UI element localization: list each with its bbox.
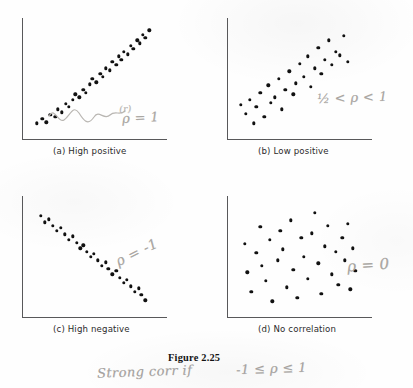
data-point <box>59 226 62 229</box>
data-point <box>278 229 281 232</box>
data-point <box>147 29 150 32</box>
data-point <box>319 72 322 75</box>
data-point <box>71 98 74 101</box>
data-point <box>334 50 337 53</box>
data-point <box>281 248 284 251</box>
data-point <box>351 247 354 250</box>
data-point <box>114 269 117 272</box>
data-point <box>306 277 309 280</box>
data-point <box>337 283 340 286</box>
data-point <box>110 60 113 63</box>
data-point <box>39 214 42 217</box>
data-point <box>313 66 316 69</box>
data-point <box>323 244 326 247</box>
data-point <box>255 251 258 254</box>
data-point <box>67 105 70 108</box>
panel-high-positive: (r) ρ = 1 (a) High positive <box>22 18 197 158</box>
data-point <box>44 120 47 123</box>
panel-low-positive: ½ < ρ < 1 (b) Low positive <box>227 18 402 158</box>
data-point <box>342 34 345 37</box>
data-point <box>101 75 104 78</box>
data-point <box>300 236 303 239</box>
data-point <box>73 92 76 95</box>
data-point <box>334 250 337 253</box>
data-point <box>100 264 103 267</box>
data-point <box>88 83 91 86</box>
data-point <box>55 229 58 232</box>
handwriting-note-bottom: Strong corr if <box>97 362 193 380</box>
figure-caption: Figure 2.25 <box>168 352 220 363</box>
scatter-plot-c <box>22 196 167 318</box>
data-point <box>143 298 146 301</box>
data-point <box>248 98 251 101</box>
data-points-c <box>22 196 167 318</box>
data-point <box>285 286 288 289</box>
data-point <box>346 222 349 225</box>
data-point <box>85 250 88 253</box>
data-point <box>81 243 84 246</box>
data-point <box>288 70 291 73</box>
data-point <box>284 88 287 91</box>
data-point <box>95 81 98 84</box>
data-point <box>60 111 63 114</box>
data-point <box>319 292 322 295</box>
data-point <box>309 85 312 88</box>
data-point <box>110 273 113 276</box>
data-point <box>75 241 78 244</box>
caption-panel-c: (c) High negative <box>53 324 130 334</box>
data-point <box>54 115 57 118</box>
data-point <box>276 259 279 262</box>
data-point <box>330 63 333 66</box>
data-point <box>264 279 267 282</box>
data-point <box>137 287 140 290</box>
data-point <box>118 276 121 279</box>
data-point <box>348 288 351 291</box>
data-point <box>89 255 92 258</box>
data-point <box>132 47 135 50</box>
data-point <box>338 54 341 57</box>
data-point <box>122 281 125 284</box>
data-point <box>79 247 82 250</box>
data-point <box>48 113 51 116</box>
data-point <box>255 105 258 108</box>
data-point <box>114 63 117 66</box>
data-point <box>271 300 274 303</box>
data-point <box>71 235 74 238</box>
data-point <box>292 92 295 95</box>
data-point <box>51 224 54 227</box>
data-point <box>120 58 123 61</box>
panel-high-negative: ρ = -1 (c) High negative <box>22 196 197 336</box>
data-point <box>249 290 252 293</box>
data-point <box>126 52 129 55</box>
data-point <box>40 117 43 120</box>
data-point <box>280 108 283 111</box>
data-point <box>104 261 107 264</box>
handwriting-rho-equals-a: ρ = 1 <box>122 109 160 126</box>
data-point <box>302 75 305 78</box>
data-points-b <box>227 18 372 140</box>
data-point <box>298 62 301 65</box>
data-point <box>129 284 132 287</box>
data-point <box>96 259 99 262</box>
data-point <box>35 122 38 125</box>
data-point <box>104 66 107 69</box>
data-point <box>346 60 349 63</box>
data-point <box>292 268 295 271</box>
data-point <box>310 232 313 235</box>
data-point <box>269 101 272 104</box>
data-point <box>133 290 136 293</box>
data-point <box>244 112 247 115</box>
data-point <box>289 219 292 222</box>
data-point <box>143 36 146 39</box>
data-point <box>43 221 46 224</box>
data-point <box>263 115 266 118</box>
data-point <box>239 103 242 106</box>
data-point <box>323 58 326 61</box>
data-point <box>84 91 87 94</box>
data-point <box>122 50 125 53</box>
data-point <box>67 238 70 241</box>
caption-panel-d: (d) No correlation <box>258 324 336 334</box>
data-point <box>63 233 66 236</box>
data-point <box>326 224 329 227</box>
data-point <box>125 278 128 281</box>
